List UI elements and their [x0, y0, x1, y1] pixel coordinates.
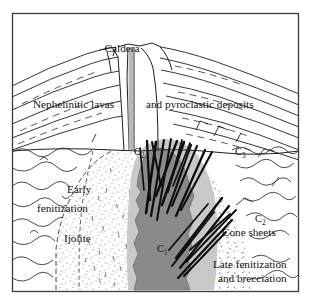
figure-root: Caldera Nephelinitic lavas and pyroclast… [0, 0, 311, 306]
label-nephelinitic-lavas: Nephelinitic lavas [33, 98, 114, 110]
label-c2-upper-letter: C [134, 146, 141, 157]
ring-fault-infill [129, 48, 134, 150]
label-c3-right-subscript: 3 [242, 152, 246, 160]
label-cone-sheets: Cone sheets [222, 226, 276, 238]
label-c1-subscript: 1 [164, 249, 168, 257]
label-early: Early [67, 183, 92, 195]
label-c2-upper-subscript: 2 [141, 152, 145, 160]
label-pyroclastic-deposits: and pyroclastic deposits [146, 98, 254, 110]
label-late-fenitization: Late fenitization [213, 258, 287, 270]
label-caldera: Caldera [105, 42, 140, 54]
label-c2-cone-letter: C [255, 213, 262, 224]
geological-cross-section-diagram: Caldera Nephelinitic lavas and pyroclast… [0, 0, 311, 306]
label-c1-letter: C [157, 243, 164, 254]
label-ijolite: Ijolite [64, 232, 91, 244]
label-c3-right-letter: C [235, 146, 242, 157]
label-fenitization: fenitization [37, 202, 88, 214]
label-and-brecciation: and brecciation [218, 272, 287, 284]
